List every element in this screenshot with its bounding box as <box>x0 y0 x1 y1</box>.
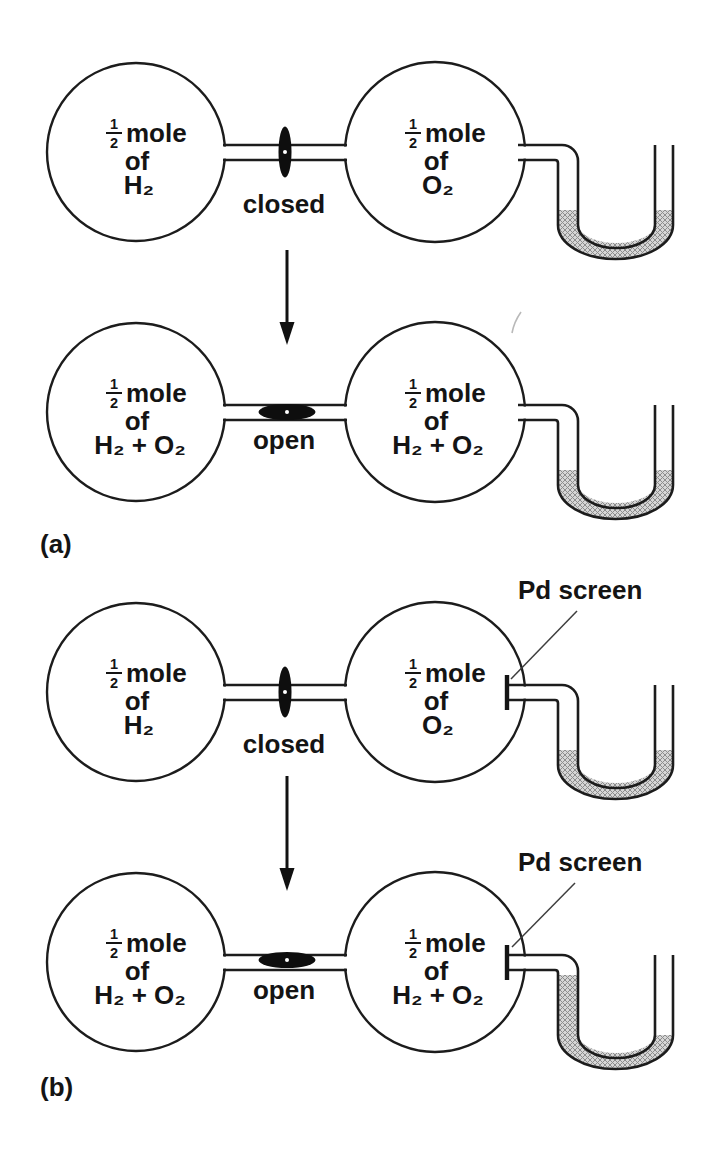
pd-screen-label: Pd screen <box>518 847 642 877</box>
stopcock-pivot-dot <box>285 958 289 962</box>
fraction-denominator: 2 <box>110 395 118 411</box>
fraction-denominator: 2 <box>409 675 417 691</box>
arrow-head <box>280 322 295 345</box>
figure-page: closed 1 2 mole of H₂ 1 2 mole of O₂ ope… <box>0 0 708 1149</box>
pd-screen-leader-line <box>512 883 575 947</box>
fraction-denominator: 2 <box>110 945 118 961</box>
fraction-denominator: 2 <box>110 675 118 691</box>
amount-label: mole <box>425 118 486 148</box>
amount-label: mole <box>425 928 486 958</box>
stopcock-pivot-dot <box>285 410 289 414</box>
panel-b-final: Pd screen open 1 2 mole of H₂ + O₂ 1 2 m… <box>47 847 673 1069</box>
outlet-tube-bore <box>503 687 562 699</box>
right-flask-formula: O₂ <box>422 710 454 740</box>
fraction-numerator: 1 <box>110 926 118 942</box>
transition-arrow-b <box>280 776 295 891</box>
figure-canvas: closed 1 2 mole of H₂ 1 2 mole of O₂ ope… <box>0 0 708 1149</box>
outlet-tube-bore <box>503 957 562 969</box>
fraction-numerator: 1 <box>110 376 118 392</box>
fraction-numerator: 1 <box>409 376 417 392</box>
right-flask-formula: H₂ + O₂ <box>392 430 484 460</box>
fraction-denominator: 2 <box>409 945 417 961</box>
amount-label: mole <box>425 378 486 408</box>
panel-b-initial: Pd screen closed 1 2 mole of H₂ 1 2 mole… <box>47 575 673 799</box>
fraction-denominator: 2 <box>110 135 118 151</box>
left-flask-formula: H₂ + O₂ <box>94 430 186 460</box>
right-flask-formula: H₂ + O₂ <box>392 980 484 1010</box>
left-flask-formula: H₂ + O₂ <box>94 980 186 1010</box>
outlet-tube-bore <box>515 407 562 419</box>
stopcock-pivot-dot <box>283 690 287 694</box>
transition-arrow-a <box>280 250 295 345</box>
scan-artifact-mark <box>512 312 521 333</box>
fraction-denominator: 2 <box>409 135 417 151</box>
outlet-tube-bore <box>515 147 562 159</box>
valve-state-label: open <box>253 425 315 455</box>
fraction-numerator: 1 <box>110 656 118 672</box>
amount-label: mole <box>126 658 187 688</box>
caption-a: (a) <box>40 529 72 559</box>
left-flask-formula: H₂ <box>124 170 154 200</box>
arrow-head <box>280 868 295 891</box>
pd-screen-leader-line <box>511 611 577 679</box>
valve-state-label: closed <box>243 189 325 219</box>
right-flask-formula: O₂ <box>422 170 454 200</box>
amount-label: mole <box>425 658 486 688</box>
fraction-denominator: 2 <box>409 395 417 411</box>
amount-label: mole <box>126 378 187 408</box>
amount-label: mole <box>126 118 187 148</box>
panel-a-final: open 1 2 mole of H₂ + O₂ 1 2 mole of H₂ … <box>47 322 673 519</box>
fraction-numerator: 1 <box>409 926 417 942</box>
fraction-numerator: 1 <box>409 116 417 132</box>
valve-state-label: closed <box>243 729 325 759</box>
amount-label: mole <box>126 928 187 958</box>
left-flask-formula: H₂ <box>124 710 154 740</box>
stopcock-pivot-dot <box>283 150 287 154</box>
fraction-numerator: 1 <box>409 656 417 672</box>
valve-state-label: open <box>253 975 315 1005</box>
fraction-numerator: 1 <box>110 116 118 132</box>
pd-screen-label: Pd screen <box>518 575 642 605</box>
caption-b: (b) <box>40 1072 73 1102</box>
panel-a-initial: closed 1 2 mole of H₂ 1 2 mole of O₂ <box>47 62 673 259</box>
